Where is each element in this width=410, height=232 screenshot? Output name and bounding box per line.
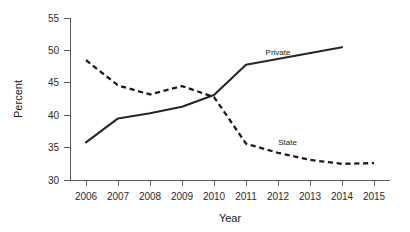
x-tick-label: 2009	[171, 191, 194, 202]
series-label-private: Private	[266, 48, 291, 57]
y-tick-label: 45	[48, 77, 60, 88]
series-line-state	[86, 60, 374, 164]
x-tick-label: 2012	[267, 191, 290, 202]
x-axis-ticks: 2006200720082009201020112012201320142015	[75, 180, 386, 202]
data-series-group	[86, 47, 374, 164]
line-chart: 303540455055 200620072008200920102011201…	[0, 0, 410, 232]
x-tick-label: 2015	[363, 191, 386, 202]
x-axis-title: Year	[219, 212, 242, 224]
x-tick-label: 2011	[235, 191, 257, 202]
series-label-state: State	[278, 138, 297, 147]
x-tick-label: 2006	[75, 191, 98, 202]
series-inline-labels: PrivateState	[266, 48, 298, 147]
x-tick-label: 2014	[331, 191, 354, 202]
y-tick-label: 40	[48, 110, 60, 121]
series-line-private	[86, 47, 342, 142]
x-tick-label: 2008	[139, 191, 162, 202]
y-axis-title: Percent	[12, 80, 24, 118]
x-tick-label: 2013	[299, 191, 322, 202]
x-tick-label: 2010	[203, 191, 226, 202]
y-tick-label: 30	[48, 175, 60, 186]
y-tick-label: 50	[48, 45, 60, 56]
chart-container: 303540455055 200620072008200920102011201…	[0, 0, 410, 232]
y-axis-ticks: 303540455055	[48, 13, 70, 186]
y-tick-label: 55	[48, 13, 60, 24]
y-tick-label: 35	[48, 142, 60, 153]
x-tick-label: 2007	[107, 191, 130, 202]
